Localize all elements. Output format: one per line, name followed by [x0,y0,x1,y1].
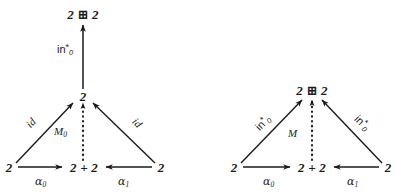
left-diagram-node-bottom-right: 2 [158,161,165,174]
left-diagram-node-bottom-mid: 2 + 2 [70,161,98,174]
left-diagram-dotted-label: M0 [54,126,67,138]
right-diagram-bottom-right-arrow-label: α1 [347,176,358,188]
right-diagram-node-bottom-mid: 2 + 2 [298,161,326,174]
right-diagram-node-bottom-left: 2 [231,161,238,174]
left-diagram-node-top: 2 ⊞ 2 [67,8,98,21]
right-diagram-node-bottom-right: 2 [385,161,392,174]
left-diagram-bottom-left-arrow-label: α0 [35,176,46,188]
right-diagram-right-diagonal-arrow [322,100,382,163]
left-diagram-node-bottom-left: 2 [6,161,13,174]
figure-commutative-diagrams: 2 ⊞ 2 2 2 2 + 2 2 in*0 id id M0 α0 α1 2 … [0,0,396,193]
left-diagram-bottom-right-arrow-label: α1 [118,176,129,188]
left-diagram-node-apex: 2 [80,90,87,103]
diagram-strokes [0,0,396,193]
right-diagram-dotted-label: M [288,128,297,139]
right-diagram-node-apex: 2 ⊞ 2 [296,84,327,97]
left-diagram-right-diagonal-arrow [93,103,155,163]
left-diagram-top-vertical-arrow-label: in*0 [57,43,73,57]
right-diagram-bottom-left-arrow-label: α0 [263,176,274,188]
